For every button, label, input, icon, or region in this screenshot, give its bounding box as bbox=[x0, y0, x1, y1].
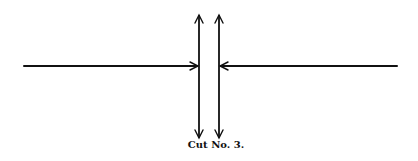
right-horizontal-arrow bbox=[220, 62, 397, 70]
left-vertical-arrow bbox=[195, 15, 203, 138]
figure-caption: Cut No. 3. bbox=[186, 139, 246, 150]
left-horizontal-arrow bbox=[24, 62, 198, 70]
right-vertical-arrow bbox=[215, 15, 223, 138]
diagram-canvas: Cut No. 3. bbox=[0, 0, 418, 161]
cut-diagram bbox=[0, 0, 418, 161]
